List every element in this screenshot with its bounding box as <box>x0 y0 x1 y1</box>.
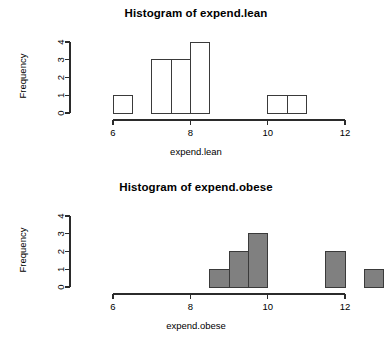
x-axis-label-obese: expend.obese <box>0 320 392 331</box>
histogram-bar <box>229 252 248 288</box>
bar-group-obese <box>210 234 384 287</box>
y-axis-tick-label: 1 <box>55 267 66 272</box>
x-axis-tick-label: 6 <box>110 127 115 138</box>
axis-group-obese: 01234681012 <box>55 213 351 312</box>
y-axis-tick-label: 1 <box>55 93 66 98</box>
x-axis-tick-label: 10 <box>262 301 273 312</box>
histogram-bar <box>268 95 287 113</box>
panel-expend-obese: Histogram of expend.obese Frequency 0123… <box>0 174 392 348</box>
histogram-bar <box>248 234 267 287</box>
histogram-bar <box>190 42 209 113</box>
histogram-bar <box>113 95 132 113</box>
y-axis-tick-label: 0 <box>55 284 66 289</box>
bar-group-lean <box>113 42 306 113</box>
x-axis-tick-label: 12 <box>340 301 351 312</box>
x-axis-tick-label: 12 <box>340 127 351 138</box>
histogram-bar <box>210 269 229 287</box>
y-axis-tick-label: 2 <box>55 75 66 80</box>
panel-expend-lean: Histogram of expend.lean Frequency 01234… <box>0 0 392 174</box>
histogram-figure: Histogram of expend.lean Frequency 01234… <box>0 0 392 348</box>
y-axis-tick-label: 3 <box>55 231 66 236</box>
histogram-bar <box>326 252 345 288</box>
x-axis-label-lean: expend.lean <box>0 146 392 157</box>
y-axis-tick-label: 2 <box>55 249 66 254</box>
y-axis-tick-label: 0 <box>55 110 66 115</box>
x-axis-tick-label: 10 <box>262 127 273 138</box>
y-axis-tick-label: 3 <box>55 57 66 62</box>
histogram-bar <box>287 95 306 113</box>
x-axis-tick-label: 8 <box>188 301 193 312</box>
histogram-bar <box>152 60 171 113</box>
x-axis-tick-label: 6 <box>110 301 115 312</box>
y-axis-tick-label: 4 <box>55 39 66 44</box>
y-axis-tick-label: 4 <box>55 213 66 218</box>
x-axis-tick-label: 8 <box>188 127 193 138</box>
histogram-bar <box>364 269 383 287</box>
histogram-bar <box>171 60 190 113</box>
